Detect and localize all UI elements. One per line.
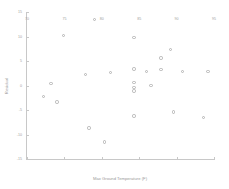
x-axis-tick-label: 80 — [100, 17, 104, 21]
plot-area: 707580859095151050-5-10-15 — [26, 12, 214, 160]
x-axis-tick-label: 95 — [212, 17, 216, 21]
y-axis-tick-label: 5 — [20, 59, 22, 63]
x-axis-tick-label: 70 — [25, 17, 29, 21]
y-axis-tick — [26, 86, 29, 87]
data-point — [132, 36, 135, 39]
data-point — [109, 71, 112, 74]
y-axis-tick — [26, 110, 29, 111]
y-axis-tick-label: -10 — [17, 133, 22, 137]
x-axis-tick — [102, 157, 103, 160]
data-point — [55, 100, 58, 103]
data-point — [93, 18, 96, 21]
y-axis-tick — [26, 61, 29, 62]
data-point — [49, 82, 52, 85]
y-axis-tick — [26, 159, 29, 160]
x-axis-tick — [214, 157, 215, 160]
x-axis-tick-label: 90 — [175, 17, 179, 21]
residual-scatter-chart: Residual 707580859095151050-5-10-15 Max … — [0, 0, 229, 189]
y-axis-tick-label: -5 — [19, 108, 22, 112]
data-point — [62, 34, 65, 37]
data-point — [132, 89, 135, 92]
data-point — [206, 70, 209, 73]
data-point — [159, 68, 162, 71]
y-axis-tick — [26, 135, 29, 136]
data-point — [172, 110, 175, 113]
y-axis-tick-label: 15 — [18, 10, 22, 14]
data-point — [132, 67, 135, 70]
data-point — [169, 48, 172, 51]
data-point — [84, 73, 87, 76]
data-point — [132, 81, 135, 84]
x-axis-tick — [139, 157, 140, 160]
data-point — [42, 95, 45, 98]
y-axis-tick-label: 10 — [18, 35, 22, 39]
y-axis-tick — [26, 37, 29, 38]
x-axis-tick — [177, 157, 178, 160]
data-point — [181, 70, 184, 73]
y-axis-tick-label: -15 — [17, 157, 22, 161]
data-point — [202, 116, 205, 119]
data-point — [149, 84, 152, 87]
x-axis-tick — [64, 157, 65, 160]
data-point — [87, 126, 90, 129]
x-axis-tick-label: 75 — [62, 17, 66, 21]
data-point — [159, 56, 162, 59]
y-axis-tick — [26, 12, 29, 13]
data-point — [145, 70, 148, 73]
x-axis-tick-label: 85 — [137, 17, 141, 21]
data-point — [103, 140, 106, 143]
x-axis-title: Max Ground Temperature (F) — [93, 176, 147, 181]
data-point — [132, 114, 135, 117]
y-axis-title: Residual — [4, 78, 9, 94]
y-axis-tick-label: 0 — [20, 84, 22, 88]
